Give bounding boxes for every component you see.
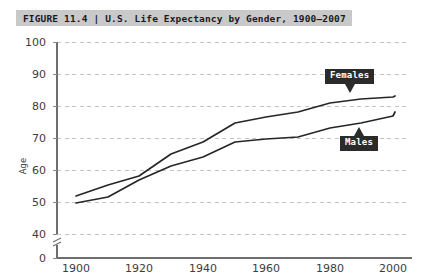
- y-tick-label-40: 40: [10, 228, 46, 241]
- y-tick-label-80: 80: [10, 100, 46, 113]
- x-tick-label-1940: 1940: [189, 262, 217, 275]
- y-tick-label-60: 60: [10, 164, 46, 177]
- x-tick-label-2000: 2000: [379, 262, 407, 275]
- x-tick-label-1920: 1920: [125, 262, 153, 275]
- y-tick-label-90: 90: [10, 68, 46, 81]
- y-axis-break-icon: [53, 238, 61, 246]
- annotation-females-label: Females: [325, 69, 374, 84]
- annotation-females: Females: [325, 69, 374, 93]
- figure-container: FIGURE 11.4 | U.S. Life Expectancy by Ge…: [0, 0, 424, 279]
- y-axis-title: Age: [18, 146, 28, 186]
- annotation-males: Males: [340, 127, 378, 151]
- y-tick-label-70: 70: [10, 132, 46, 145]
- x-tick-label-1900: 1900: [62, 262, 90, 275]
- series-line-males: [76, 112, 395, 203]
- y-tick-label-0: 0: [10, 252, 46, 265]
- annotation-females-pointer: [345, 84, 355, 93]
- y-tick-label-100: 100: [10, 36, 46, 49]
- y-tick-label-50: 50: [10, 196, 46, 209]
- x-tick-label-1980: 1980: [316, 262, 344, 275]
- x-tick-label-1960: 1960: [252, 262, 280, 275]
- annotation-males-label: Males: [340, 136, 378, 151]
- annotation-males-pointer: [354, 127, 364, 136]
- chart-plot-area: 100 90 80 70 60 50 40 0 Age 1900 1920 19…: [0, 0, 424, 279]
